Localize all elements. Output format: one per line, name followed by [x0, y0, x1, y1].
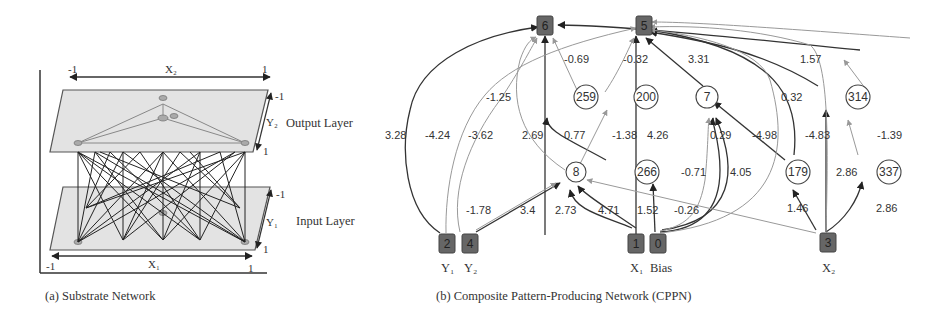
cppn-hidden-node-259: 259 — [574, 85, 598, 109]
svg-text:0.32: 0.32 — [781, 91, 802, 103]
svg-text:0.77: 0.77 — [564, 129, 585, 141]
svg-text:-4.83: -4.83 — [805, 129, 830, 141]
y2-max-label: 1 — [263, 145, 269, 157]
svg-text:-4.98: -4.98 — [752, 129, 777, 141]
svg-text:1: 1 — [633, 237, 640, 251]
y1-axis-label: Y₁ — [266, 216, 278, 228]
output-layer-label: Output Layer — [286, 116, 354, 130]
input-label-bias: Bias — [650, 261, 672, 275]
svg-text:314: 314 — [848, 90, 868, 104]
svg-text:4.05: 4.05 — [730, 166, 751, 178]
cppn-hidden-node-8: 8 — [566, 162, 586, 182]
y1-min-label: -1 — [276, 188, 285, 200]
substrate-network-panel: -1 X₂ 1 -1 Y₂ 1 Output Layer — [40, 63, 355, 303]
svg-text:4.71: 4.71 — [598, 204, 619, 216]
cppn-hidden-node-337: 337 — [877, 160, 901, 184]
input-label-y2: Y₂ — [464, 261, 477, 275]
svg-text:200: 200 — [636, 90, 656, 104]
svg-text:8: 8 — [573, 165, 580, 179]
cppn-output-node-6: 6 — [537, 16, 553, 35]
svg-text:-0.26: -0.26 — [674, 204, 699, 216]
cppn-hidden-node-179: 179 — [786, 160, 810, 184]
cppn-input-node-4: 4 Y₂ — [462, 234, 478, 275]
y1-max-label: 1 — [263, 243, 269, 255]
svg-text:-4.24: -4.24 — [425, 129, 450, 141]
cppn-panel: 6 5 259 200 7 314 — [385, 16, 910, 303]
x1-axis-label: X₁ — [148, 258, 160, 270]
svg-text:179: 179 — [788, 165, 808, 179]
svg-text:4.26: 4.26 — [647, 129, 668, 141]
x2-min-label: -1 — [68, 63, 77, 75]
svg-text:0: 0 — [655, 237, 662, 251]
cppn-input-node-3: 3 X₂ — [820, 233, 836, 275]
svg-text:3.28: 3.28 — [385, 129, 406, 141]
cppn-edges-light — [446, 22, 910, 233]
svg-text:1.46: 1.46 — [787, 202, 808, 214]
substrate-caption: (a) Substrate Network — [45, 289, 156, 303]
cppn-input-node-1: 1 X₁ — [628, 234, 644, 275]
svg-text:1.52: 1.52 — [637, 204, 658, 216]
input-label-x2: X₂ — [822, 261, 835, 275]
input-layer-label: Input Layer — [296, 214, 355, 228]
svg-text:2.73: 2.73 — [555, 204, 576, 216]
svg-text:7: 7 — [704, 90, 711, 104]
svg-text:-0.71: -0.71 — [681, 166, 706, 178]
svg-text:0.29: 0.29 — [710, 129, 731, 141]
cppn-input-node-2: 2 Y₁ — [439, 234, 455, 275]
svg-text:3.31: 3.31 — [688, 53, 709, 65]
svg-text:266: 266 — [637, 165, 657, 179]
cppn-hidden-node-7: 7 — [696, 86, 718, 108]
svg-text:2: 2 — [444, 237, 451, 251]
svg-text:-1.78: -1.78 — [466, 204, 491, 216]
cppn-caption: (b) Composite Pattern-Producing Network … — [436, 289, 692, 303]
svg-text:-1.25: -1.25 — [486, 91, 511, 103]
cppn-output-node-5: 5 — [636, 16, 652, 35]
svg-text:3.4: 3.4 — [520, 204, 535, 216]
x2-max-label: 1 — [262, 63, 268, 75]
x1-min-label: -1 — [46, 260, 55, 272]
cppn-hidden-node-314: 314 — [846, 85, 870, 109]
svg-text:5: 5 — [641, 19, 648, 33]
svg-text:259: 259 — [576, 90, 596, 104]
cppn-hidden-node-266: 266 — [635, 160, 659, 184]
cppn-hidden-node-200: 200 — [634, 85, 658, 109]
svg-text:-3.62: -3.62 — [468, 129, 493, 141]
y2-min-label: -1 — [275, 90, 284, 102]
x2-axis-label: X₂ — [165, 63, 177, 75]
svg-text:-1.39: -1.39 — [877, 129, 902, 141]
svg-text:2.69: 2.69 — [522, 129, 543, 141]
svg-text:6: 6 — [542, 19, 549, 33]
svg-text:-1.38: -1.38 — [612, 129, 637, 141]
svg-text:-0.69: -0.69 — [564, 53, 589, 65]
svg-text:1.57: 1.57 — [800, 53, 821, 65]
y2-axis-label: Y₂ — [266, 116, 278, 128]
svg-text:2.86: 2.86 — [836, 166, 857, 178]
cppn-input-node-0: 0 Bias — [650, 234, 672, 275]
svg-text:2.86: 2.86 — [876, 202, 897, 214]
svg-text:-0.32: -0.32 — [623, 53, 648, 65]
input-label-y1: Y₁ — [441, 261, 454, 275]
svg-text:3: 3 — [825, 236, 832, 250]
x1-max-label: 1 — [248, 262, 254, 274]
svg-text:4: 4 — [467, 237, 474, 251]
svg-text:337: 337 — [879, 165, 899, 179]
input-label-x1: X₁ — [630, 261, 643, 275]
